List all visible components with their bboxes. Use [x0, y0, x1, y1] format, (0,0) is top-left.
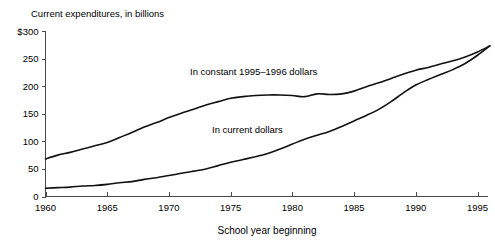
x-tick-label: 1970 [158, 202, 179, 213]
y-tick-label: $300 [17, 26, 38, 37]
expenditures-line-chart: Current expenditures, in billions 050100… [0, 0, 495, 243]
constant-dollars-label: In constant 1995–1996 dollars [190, 66, 318, 77]
chart-container: Current expenditures, in billions 050100… [0, 0, 495, 243]
y-tick-label: 100 [23, 136, 39, 147]
x-axis-title: School year beginning [218, 225, 317, 236]
x-tick-label: 1995 [467, 202, 488, 213]
y-tick-label: 0 [33, 191, 38, 202]
x-tick-label: 1980 [282, 202, 303, 213]
series-line [46, 46, 490, 159]
x-tick-label: 1990 [405, 202, 426, 213]
y-tick-label: 50 [28, 163, 39, 174]
x-axis-ticks: 19601965197019751980198519901995 [35, 192, 488, 213]
chart-title: Current expenditures, in billions [31, 8, 164, 19]
current-dollars-label: In current dollars [212, 124, 283, 135]
y-tick-label: 150 [23, 108, 39, 119]
series-annotations-group: In constant 1995–1996 dollarsIn current … [190, 66, 318, 135]
y-tick-label: 200 [23, 81, 39, 92]
y-axis-ticks: 050100150200250$300 [17, 26, 45, 203]
y-tick-label: 250 [23, 53, 39, 64]
x-tick-label: 1985 [344, 202, 365, 213]
x-tick-label: 1975 [220, 202, 241, 213]
x-tick-label: 1960 [35, 202, 56, 213]
x-tick-label: 1965 [97, 202, 118, 213]
